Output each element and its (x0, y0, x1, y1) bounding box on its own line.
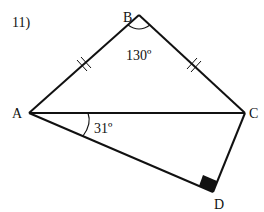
vertex-label-c: C (249, 106, 258, 121)
angle-label-cad: 31º (94, 121, 113, 136)
vertex-label-d: D (214, 197, 224, 212)
segment-ad (29, 113, 213, 192)
vertex-label-a: A (12, 106, 23, 121)
angle-label-b: 130º (126, 48, 152, 63)
vertex-label-b: B (123, 10, 132, 25)
angle-arc-a (83, 113, 89, 136)
geometry-diagram: 11) 130º 31º B A C D (0, 0, 264, 212)
problem-number: 11) (12, 15, 30, 31)
angle-arc-b (128, 25, 150, 29)
segment-ab (29, 15, 139, 113)
segment-cd (213, 113, 245, 192)
